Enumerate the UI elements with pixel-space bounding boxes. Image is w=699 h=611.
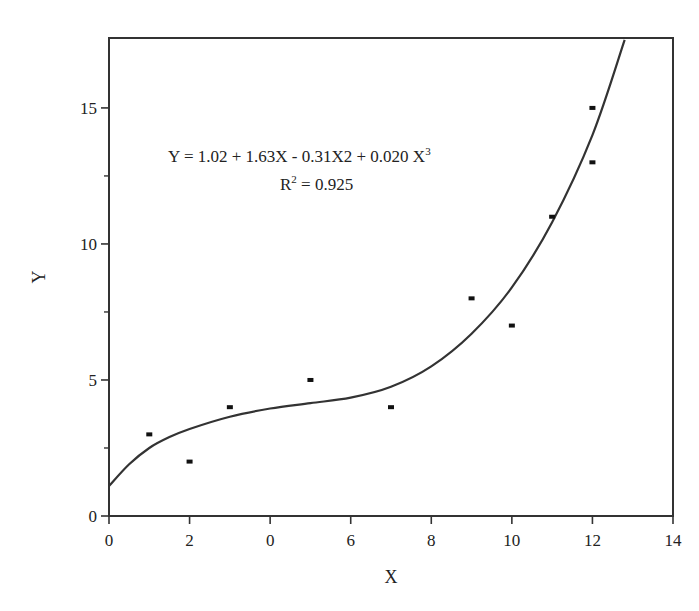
r-squared-annotation: R2 = 0.925: [280, 173, 353, 194]
y-tick-label: 0: [89, 507, 98, 526]
data-point: [388, 405, 394, 409]
fit-curve: [109, 40, 625, 486]
y-tick-label: 10: [80, 235, 97, 254]
x-axis: 02068101214: [105, 516, 682, 550]
data-point: [187, 460, 193, 464]
x-tick-label: 6: [346, 531, 355, 550]
y-axis-label: Y: [29, 271, 49, 284]
data-point: [509, 324, 515, 328]
x-tick-label: 8: [427, 531, 436, 550]
x-tick-label: 0: [105, 531, 114, 550]
y-tick-label: 15: [80, 99, 97, 118]
plot-frame: [109, 38, 673, 516]
x-tick-label: 10: [503, 531, 520, 550]
data-point: [469, 296, 475, 300]
x-tick-label: 0: [266, 531, 275, 550]
scatter-chart: 051015 02068101214 X Y Y = 1.02 + 1.63X …: [0, 0, 699, 611]
y-axis: 051015: [80, 99, 109, 526]
x-axis-label: X: [385, 567, 398, 587]
data-point: [307, 378, 313, 382]
x-tick-label: 14: [665, 531, 683, 550]
data-point: [589, 106, 595, 110]
equation-annotation: Y = 1.02 + 1.63X - 0.31X2 + 0.020 X3: [168, 145, 431, 166]
y-tick-label: 5: [89, 371, 98, 390]
x-tick-label: 12: [584, 531, 601, 550]
data-point: [589, 160, 595, 164]
data-point: [549, 215, 555, 219]
data-point: [146, 432, 152, 436]
x-tick-label: 2: [185, 531, 194, 550]
data-point: [227, 405, 233, 409]
